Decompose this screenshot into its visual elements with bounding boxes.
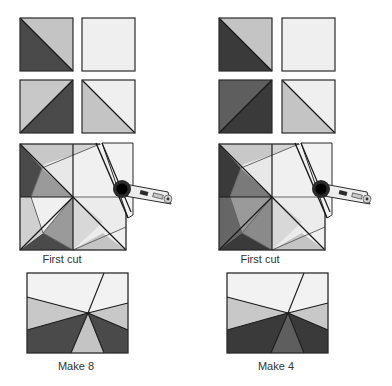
make-8-label: Make 8 (16, 360, 136, 372)
hst-square-pale-light-right (282, 80, 335, 133)
right-panel (219, 18, 371, 353)
hst-square-dark-light-right (219, 18, 272, 71)
hst-square-mediumdark-dark-right (219, 80, 272, 133)
assembled-block-left (20, 143, 133, 250)
first-cut-label-left: First cut (2, 253, 122, 265)
final-block-right (227, 273, 328, 353)
assembled-block-right (219, 143, 332, 250)
make-4-label: Make 4 (216, 360, 336, 372)
quilt-diagram (0, 0, 392, 386)
left-panel (20, 18, 172, 353)
hst-square-light-dark (20, 80, 73, 133)
plain-pale-square (82, 18, 135, 71)
hst-square-dark-light (20, 18, 73, 71)
plain-pale-square-right (282, 18, 335, 71)
hst-square-pale-light (82, 80, 135, 133)
first-cut-label-right: First cut (200, 253, 320, 265)
final-block-left (27, 273, 128, 353)
